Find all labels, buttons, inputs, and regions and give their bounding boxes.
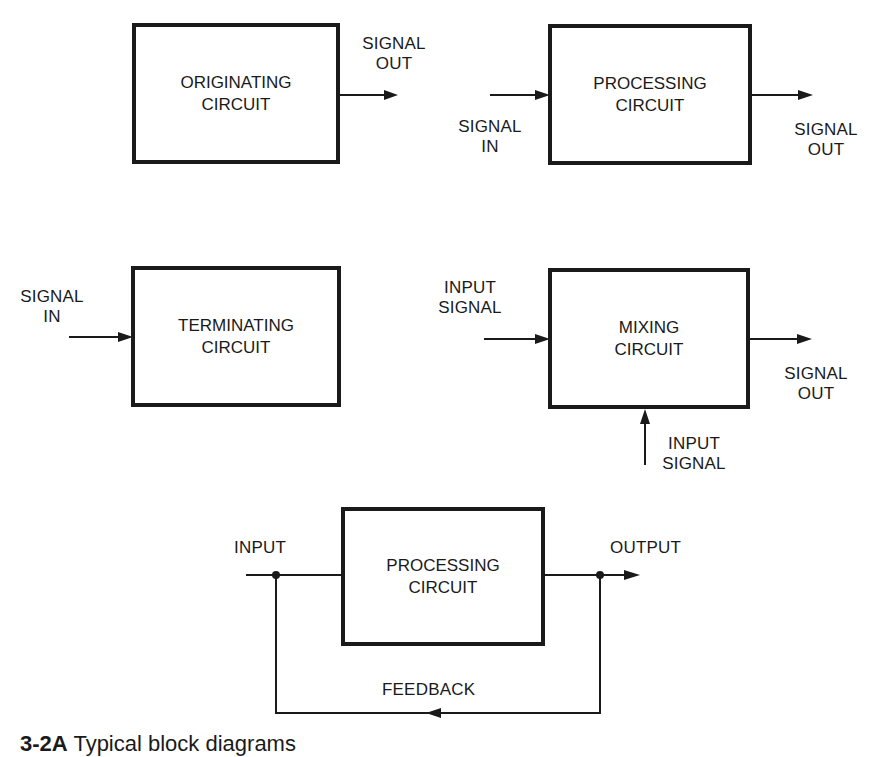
figure-caption: 3-2A Typical block diagrams (20, 731, 296, 757)
figure-caption-text: Typical block diagrams (73, 731, 296, 756)
terminating-input-arrow-icon (118, 332, 133, 342)
originating-output-arrow-icon (384, 90, 398, 100)
processing-input-arrow-icon (535, 90, 550, 100)
mixing-bottom-input-arrow-icon (640, 409, 650, 424)
processing-signal-out-label: SIGNAL OUT (784, 120, 868, 160)
originating-circuit-label: ORIGINATING CIRCUIT (134, 25, 338, 162)
feedback-label: FEEDBACK (382, 680, 475, 700)
terminating-signal-in-label: SIGNAL IN (14, 287, 90, 327)
mixing-bottom-input-signal-label: INPUT SIGNAL (652, 434, 736, 474)
feedback-processing-circuit-label: PROCESSING CIRCUIT (343, 509, 543, 644)
mixing-signal-out-label: SIGNAL OUT (774, 364, 858, 404)
feedback-output-arrow-icon (624, 570, 640, 580)
originating-signal-out-label: SIGNAL OUT (352, 34, 436, 74)
feedback-output-label: OUTPUT (610, 538, 681, 558)
mixing-left-input-arrow-icon (535, 334, 550, 344)
mixing-output-arrow-icon (797, 334, 812, 344)
mixing-left-input-signal-label: INPUT SIGNAL (428, 278, 512, 318)
figure-caption-number: 3-2A (20, 731, 68, 756)
terminating-circuit-label: TERMINATING CIRCUIT (133, 268, 339, 405)
processing-output-arrow-icon (798, 90, 813, 100)
feedback-loop-arrow-icon (426, 708, 441, 718)
processing-signal-in-label: SIGNAL IN (452, 117, 528, 157)
mixing-circuit-label: MIXING CIRCUIT (550, 270, 748, 407)
processing-circuit-label: PROCESSING CIRCUIT (550, 26, 750, 163)
feedback-input-label: INPUT (234, 538, 286, 558)
